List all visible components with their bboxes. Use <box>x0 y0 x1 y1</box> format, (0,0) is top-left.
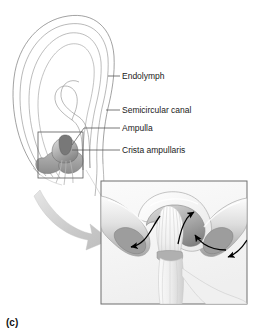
magnified-ampulla-inset <box>101 181 247 304</box>
semicircular-canal-drawing <box>13 15 114 205</box>
panel-letter: (c) <box>6 317 18 328</box>
magnify-arrow <box>34 190 110 250</box>
canal-faint-stroke-2 <box>86 170 103 199</box>
leader-lines <box>72 76 120 150</box>
semicircular-canal-figure <box>0 0 262 336</box>
label-ampulla: Ampulla <box>122 123 153 133</box>
canal-descending-limb <box>95 166 97 196</box>
label-endolymph: Endolymph <box>122 71 165 81</box>
leader-hook-ampulla <box>72 128 84 145</box>
label-semicircular-canal: Semicircular canal <box>122 105 191 115</box>
label-crista-ampullaris: Crista ampullaris <box>122 145 185 155</box>
